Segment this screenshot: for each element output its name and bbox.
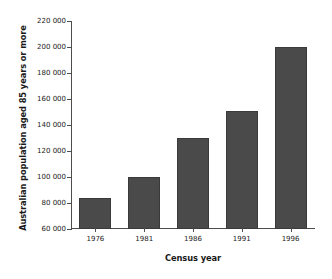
bar-slot (171, 21, 215, 229)
bar-slot (269, 21, 313, 229)
x-axis-tick-label: 1991 (220, 234, 264, 246)
bar-1976[interactable] (79, 198, 111, 229)
y-axis-tick-label: 180 000 (26, 69, 66, 77)
bar-slot (73, 21, 117, 229)
x-axis-tick-label: 1986 (171, 234, 215, 246)
plot-area (71, 21, 315, 229)
y-axis-tick-labels: 60 00080 000100 000120 000140 000160 000… (26, 14, 66, 236)
y-axis-tick-label: 100 000 (26, 173, 66, 181)
x-axis-tick-mark (242, 228, 243, 232)
y-axis-tick-label: 160 000 (26, 95, 66, 103)
x-axis-tick-mark (144, 228, 145, 232)
x-axis-tick-labels: 19761981198619911996 (71, 234, 315, 246)
y-axis-tick-mark (67, 229, 72, 230)
y-axis-tick-label: 220 000 (26, 17, 66, 25)
x-axis-tick-label: 1996 (269, 234, 313, 246)
bar-series (71, 21, 315, 229)
bar-slot (122, 21, 166, 229)
bar-1996[interactable] (275, 47, 307, 229)
x-axis-tick-label: 1981 (122, 234, 166, 246)
x-axis-tick-mark (95, 228, 96, 232)
x-axis-tick-label: 1976 (73, 234, 117, 246)
bar-1986[interactable] (177, 138, 209, 229)
y-axis-tick-label: 140 000 (26, 121, 66, 129)
y-axis-tick-label: 120 000 (26, 147, 66, 155)
bar-1981[interactable] (128, 177, 160, 229)
y-axis-tick-label: 200 000 (26, 43, 66, 51)
bar-1991[interactable] (226, 111, 258, 229)
y-axis-tick-label: 60 000 (26, 225, 66, 233)
bar-slot (220, 21, 264, 229)
y-axis-tick-label: 80 000 (26, 199, 66, 207)
x-axis-tick-mark (291, 228, 292, 232)
bar-chart-figure: Australian population aged 85 years or m… (0, 0, 332, 279)
x-axis-tick-mark (193, 228, 194, 232)
x-axis-title: Census year (71, 253, 315, 263)
